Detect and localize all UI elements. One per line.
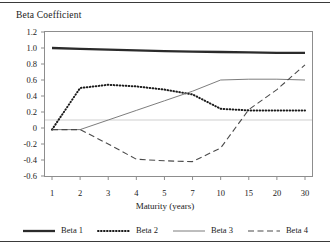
legend-item[interactable]: Beta 3 — [172, 225, 233, 235]
legend-label: Beta 4 — [286, 225, 308, 235]
figure-frame: Beta Coefficient 1.21.00.80.60.40.20-0.2… — [0, 0, 330, 248]
y-tick-label: 0.4 — [11, 91, 37, 101]
chart-legend: Beta 1Beta 2Beta 3Beta 4 — [0, 222, 330, 238]
series-line — [52, 48, 305, 53]
x-tick-label: 30 — [293, 188, 317, 198]
dotted-swatch — [97, 226, 131, 235]
x-tick-label: 5 — [152, 188, 176, 198]
x-tick-label: 10 — [209, 188, 233, 198]
x-tick-label: 2 — [68, 188, 92, 198]
legend-label: Beta 2 — [136, 225, 158, 235]
legend-label: Beta 3 — [211, 225, 233, 235]
x-axis-title: Maturity (years) — [0, 201, 330, 211]
y-tick-label: -0.2 — [11, 139, 37, 149]
y-tick-label: 0 — [11, 123, 37, 133]
series-line — [52, 85, 305, 130]
x-tick-label: 4 — [124, 188, 148, 198]
legend-item[interactable]: Beta 1 — [22, 225, 83, 235]
x-tick-label: 3 — [96, 188, 120, 198]
x-tick-label: 7 — [181, 188, 205, 198]
solid-thin-swatch — [172, 226, 206, 235]
y-tick-label: -0.6 — [11, 171, 37, 181]
x-tick-label: 15 — [237, 188, 261, 198]
solid-thick-swatch — [22, 226, 56, 235]
series-lines — [52, 48, 305, 162]
dashed-swatch — [247, 226, 281, 235]
x-tick-label: 20 — [265, 188, 289, 198]
x-tick-label: 1 — [40, 188, 64, 198]
y-tick-label: 0.6 — [11, 75, 37, 85]
y-tick-label: -0.4 — [11, 155, 37, 165]
y-tick-label: 0.2 — [11, 107, 37, 117]
legend-label: Beta 1 — [61, 225, 83, 235]
y-tick-label: 1.0 — [11, 43, 37, 53]
legend-item[interactable]: Beta 2 — [97, 225, 158, 235]
y-tick-label: 1.2 — [11, 27, 37, 37]
legend-item[interactable]: Beta 4 — [247, 225, 308, 235]
y-tick-label: 0.8 — [11, 59, 37, 69]
